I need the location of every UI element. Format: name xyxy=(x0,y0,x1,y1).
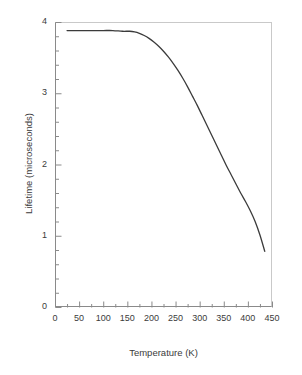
x-tick-label: 450 xyxy=(257,314,287,323)
y-tick-label: 0 xyxy=(27,302,47,311)
chart-figure: 01234 050100150200250300350400450 Temper… xyxy=(0,0,302,375)
y-axis-title: Lifetime (microseconds) xyxy=(23,74,34,254)
y-tick-label: 4 xyxy=(27,17,47,26)
x-axis-title: Temperature (K) xyxy=(55,347,272,358)
plot-area xyxy=(55,22,272,307)
